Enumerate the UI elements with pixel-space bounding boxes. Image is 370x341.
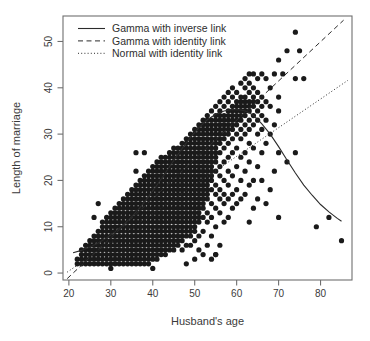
y-tick-label: 20	[43, 174, 54, 186]
data-point	[247, 141, 252, 146]
data-point	[180, 247, 185, 252]
data-point	[234, 187, 239, 192]
data-point	[201, 206, 206, 211]
data-point	[293, 76, 298, 81]
x-tick-label: 70	[273, 288, 285, 299]
data-point	[221, 192, 226, 197]
data-point	[259, 150, 264, 155]
data-point	[293, 150, 298, 155]
data-point	[230, 94, 235, 99]
data-point	[242, 76, 247, 81]
data-point	[242, 169, 247, 174]
data-point	[209, 178, 214, 183]
data-point	[251, 104, 256, 109]
data-point	[133, 169, 138, 174]
data-point	[255, 164, 260, 169]
data-point	[247, 127, 252, 132]
data-point	[301, 76, 306, 81]
data-point	[221, 104, 226, 109]
data-point	[230, 192, 235, 197]
data-point	[205, 182, 210, 187]
data-point	[205, 243, 210, 248]
data-point	[209, 257, 214, 262]
data-point	[221, 201, 226, 206]
data-point	[226, 141, 231, 146]
data-point	[234, 145, 239, 150]
data-point	[247, 220, 252, 225]
data-point	[226, 90, 231, 95]
data-point	[188, 233, 193, 238]
data-point	[217, 243, 222, 248]
data-point	[142, 150, 147, 155]
data-point	[192, 229, 197, 234]
data-point	[263, 141, 268, 146]
x-tick-label: 20	[63, 288, 75, 299]
data-point	[201, 252, 206, 257]
legend-label: Normal with identity link	[112, 47, 223, 59]
data-point	[226, 99, 231, 104]
data-point	[284, 48, 289, 53]
data-point	[238, 127, 243, 132]
data-point	[213, 192, 218, 197]
data-point	[192, 238, 197, 243]
data-point	[314, 224, 319, 229]
data-point	[255, 90, 260, 95]
data-point	[175, 243, 180, 248]
data-point	[268, 187, 273, 192]
data-point	[276, 108, 281, 113]
data-point	[230, 173, 235, 178]
data-point	[251, 178, 256, 183]
data-point	[255, 108, 260, 113]
data-point	[171, 247, 176, 252]
data-point	[259, 71, 264, 76]
data-point	[234, 164, 239, 169]
data-point	[205, 113, 210, 118]
data-point	[263, 118, 268, 123]
data-point	[242, 85, 247, 90]
data-point	[188, 243, 193, 248]
data-point	[251, 94, 256, 99]
data-point	[209, 201, 214, 206]
data-point	[230, 127, 235, 132]
data-point	[259, 178, 264, 183]
data-point	[230, 206, 235, 211]
data-point	[217, 173, 222, 178]
data-point	[263, 201, 268, 206]
data-point	[251, 122, 256, 127]
data-point	[339, 238, 344, 243]
data-point	[226, 132, 231, 137]
data-point	[234, 122, 239, 127]
data-point	[221, 145, 226, 150]
x-tick-label: 80	[315, 288, 327, 299]
data-point	[247, 81, 252, 86]
data-point	[192, 257, 197, 262]
data-point	[238, 118, 243, 123]
legend-label: Gamma with inverse link	[112, 22, 227, 34]
data-point	[326, 215, 331, 220]
y-tick-label: 50	[43, 35, 54, 47]
data-point	[209, 233, 214, 238]
data-point	[217, 164, 222, 169]
x-tick-label: 40	[147, 288, 159, 299]
data-point	[221, 94, 226, 99]
data-point	[242, 94, 247, 99]
legend-label: Gamma with identity link	[112, 35, 227, 47]
data-point	[263, 99, 268, 104]
data-point	[221, 136, 226, 141]
data-point	[276, 215, 281, 220]
data-point	[192, 224, 197, 229]
data-point	[196, 247, 201, 252]
data-point	[226, 182, 231, 187]
data-point	[255, 76, 260, 81]
x-tick-label: 50	[189, 288, 201, 299]
data-point	[238, 155, 243, 160]
data-point	[297, 48, 302, 53]
data-point	[238, 81, 243, 86]
data-point	[205, 210, 210, 215]
data-point	[205, 192, 210, 197]
data-point	[213, 159, 218, 164]
data-point	[201, 215, 206, 220]
y-tick-label: 30	[43, 128, 54, 140]
data-point	[205, 220, 210, 225]
data-point	[272, 71, 277, 76]
